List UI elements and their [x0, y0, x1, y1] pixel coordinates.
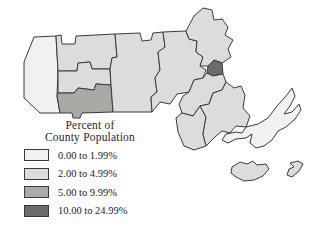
massachusetts-choropleth-map: Percent of County Population 0.00 to 1.9…	[0, 0, 329, 239]
legend-label-0: 0.00 to 1.99%	[58, 150, 117, 161]
legend-title-line1: Percent of	[26, 119, 154, 131]
legend-swatch-1	[24, 168, 49, 180]
legend-title: Percent of County Population	[26, 119, 154, 143]
legend-swatch-0	[24, 149, 49, 161]
legend-item-0[interactable]: 0.00 to 1.99%	[24, 148, 154, 162]
legend-title-line2: County Population	[26, 131, 154, 143]
legend-label-2: 5.00 to 9.99%	[58, 187, 117, 198]
island-dukes[interactable]	[231, 161, 269, 181]
legend-item-1[interactable]: 2.00 to 4.99%	[24, 167, 154, 181]
island-nantucket[interactable]	[287, 161, 303, 177]
legend-item-2[interactable]: 5.00 to 9.99%	[24, 185, 154, 199]
legend-label-3: 10.00 to 24.99%	[58, 205, 127, 216]
county-berkshire[interactable]	[24, 36, 60, 113]
legend-item-3[interactable]: 10.00 to 24.99%	[24, 204, 154, 218]
legend-swatch-2	[24, 186, 49, 198]
map-legend: Percent of County Population 0.00 to 1.9…	[24, 119, 154, 222]
legend-swatch-3	[24, 205, 49, 217]
legend-label-1: 2.00 to 4.99%	[58, 168, 117, 179]
